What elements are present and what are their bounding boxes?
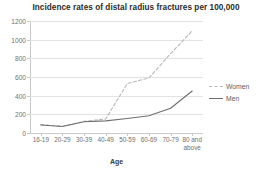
legend-item-men[interactable]: Men <box>209 92 249 104</box>
y-tick-label: 400 <box>15 92 26 99</box>
series-lines <box>30 21 203 133</box>
y-tick-label: 200 <box>15 111 26 118</box>
x-tick-mark <box>171 133 172 136</box>
y-tick-label: 800 <box>15 55 26 62</box>
series-line-women <box>41 31 192 126</box>
y-tick-label: 1200 <box>11 18 26 25</box>
plot-area: 020040060080010001200 <box>30 21 203 133</box>
x-tick-mark <box>62 133 63 136</box>
x-tick-mark <box>192 133 193 136</box>
legend-label-women: Women <box>226 83 249 90</box>
x-tick-mark <box>127 133 128 136</box>
x-tick-mark <box>106 133 107 136</box>
x-tick-mark <box>84 133 85 136</box>
chart-legend: Women Men <box>209 80 249 104</box>
y-tick-label: 600 <box>15 74 26 81</box>
series-line-men <box>41 91 192 126</box>
y-tick-mark <box>27 133 30 134</box>
x-tick-mark <box>41 133 42 136</box>
y-tick-label: 1000 <box>11 36 26 43</box>
legend-label-men: Men <box>226 95 239 102</box>
chart-title: Incidence rates of distal radius fractur… <box>0 3 258 12</box>
legend-swatch-women-icon <box>209 86 223 87</box>
x-tick-mark <box>149 133 150 136</box>
x-axis-line <box>30 133 203 134</box>
chart-container: Incidence rates of distal radius fractur… <box>0 0 258 177</box>
legend-item-women[interactable]: Women <box>209 80 249 92</box>
legend-swatch-men-icon <box>209 98 223 99</box>
x-axis-title: Age <box>30 158 203 165</box>
x-tick-label: 80 and above <box>175 136 209 151</box>
